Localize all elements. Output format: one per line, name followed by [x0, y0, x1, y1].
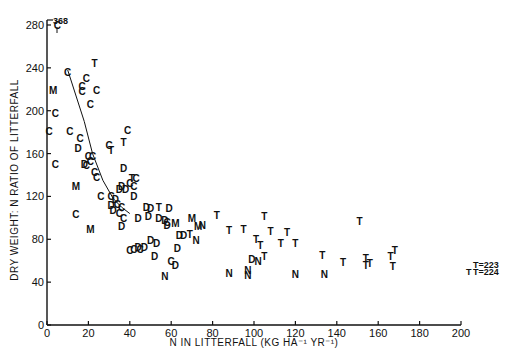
data-point-c: C [77, 133, 84, 144]
annotation-t-extra: T [466, 267, 472, 277]
data-point-c: C [45, 126, 52, 137]
data-point-n: N [192, 235, 199, 246]
data-point-t: T [108, 145, 114, 156]
x-tick-label: 40 [124, 327, 136, 339]
x-tick-label: 160 [369, 327, 387, 339]
data-point-t: T [121, 137, 127, 148]
data-point-t: T [278, 238, 284, 249]
data-point-d: D [122, 184, 129, 195]
data-point-t: T [214, 210, 220, 221]
y-tick-label: 280 [26, 19, 44, 31]
y-tick-label: 80 [32, 233, 44, 245]
data-point-n: N [244, 270, 251, 281]
data-point-t: T [261, 211, 267, 222]
data-point-d: D [174, 243, 181, 254]
data-point-t: T [156, 202, 162, 213]
data-point-t: T [367, 258, 373, 269]
data-point-t: T [268, 226, 274, 237]
data-point-t: T [390, 261, 396, 272]
data-point-d: D [130, 191, 137, 202]
data-point-c: C [83, 160, 90, 171]
data-point-t: T [292, 238, 298, 249]
data-point-c: C [87, 99, 94, 110]
data-point-c: C [79, 86, 86, 97]
data-point-c: C [64, 67, 71, 78]
data-point-d: D [120, 163, 127, 174]
y-tick-label: 160 [26, 148, 44, 160]
y-tick-label: 120 [26, 190, 44, 202]
data-point-t: T [392, 245, 398, 256]
data-point-t: T [261, 251, 267, 262]
data-point-t: T [319, 250, 325, 261]
data-point-t: T [357, 216, 363, 227]
data-point-c: C [66, 126, 73, 137]
data-point-c: C [124, 125, 131, 136]
data-point-c: C [132, 173, 139, 184]
data-point-c: C [72, 209, 79, 220]
data-point-c: C [137, 244, 144, 255]
data-point-d: D [151, 251, 158, 262]
axes [47, 20, 461, 325]
data-point-d: D [118, 221, 125, 232]
data-point-d: D [145, 211, 152, 222]
data-point-m: M [171, 218, 179, 229]
data-point-n: N [199, 220, 206, 231]
data-point-c: C [93, 172, 100, 183]
x-tick-label: 200 [452, 327, 470, 339]
data-point-m: M [86, 224, 94, 235]
data-point-m: M [49, 85, 57, 96]
y-axis-label: DRY WEIGHT: N RATIO OF LITTERFALL [9, 79, 20, 281]
y-tick-label: 40 [32, 276, 44, 288]
data-point-c: C [52, 159, 59, 170]
data-point-t: T [92, 58, 98, 69]
y-tick-label: 200 [26, 105, 44, 117]
y-tick-label: 240 [26, 62, 44, 74]
x-tick-label: 20 [82, 327, 94, 339]
data-point-d: D [163, 220, 170, 231]
data-point-t: T [257, 240, 263, 251]
data-point-t: T [241, 224, 247, 235]
x-tick-label: 180 [410, 327, 428, 339]
data-point-d: D [153, 238, 160, 249]
data-point-d: D [172, 260, 179, 271]
data-point-n: N [321, 269, 328, 280]
data-point-n: N [292, 269, 299, 280]
x-axis-label: N IN LITTERFALL (KG HA⁻¹ YR⁻¹) [170, 337, 339, 348]
data-point-t: T [340, 257, 346, 268]
data-point-t: T [284, 227, 290, 238]
annotation-t-224: T=224 [473, 267, 499, 277]
data-point-d: D [134, 213, 141, 224]
data-point-m: M [72, 181, 80, 192]
data-point-d: D [74, 143, 81, 154]
data-point-d: D [166, 203, 173, 214]
data-point-t: T [226, 225, 232, 236]
offscale-value-label: 368 [53, 16, 68, 26]
data-points: CTCCCCCCMCCCCCTCTDCCCDCCCCDMCCDDDTCCCDDD… [45, 20, 397, 282]
data-point-n: N [161, 271, 168, 282]
data-point-n: N [226, 268, 233, 279]
y-tick-label: 0 [38, 319, 44, 331]
scatter-chart: 020406080100120140160180200 040801201602… [0, 0, 510, 363]
x-tick-label: 0 [44, 327, 50, 339]
data-point-c: C [97, 191, 104, 202]
data-point-c: C [93, 85, 100, 96]
data-point-c: C [52, 108, 59, 119]
